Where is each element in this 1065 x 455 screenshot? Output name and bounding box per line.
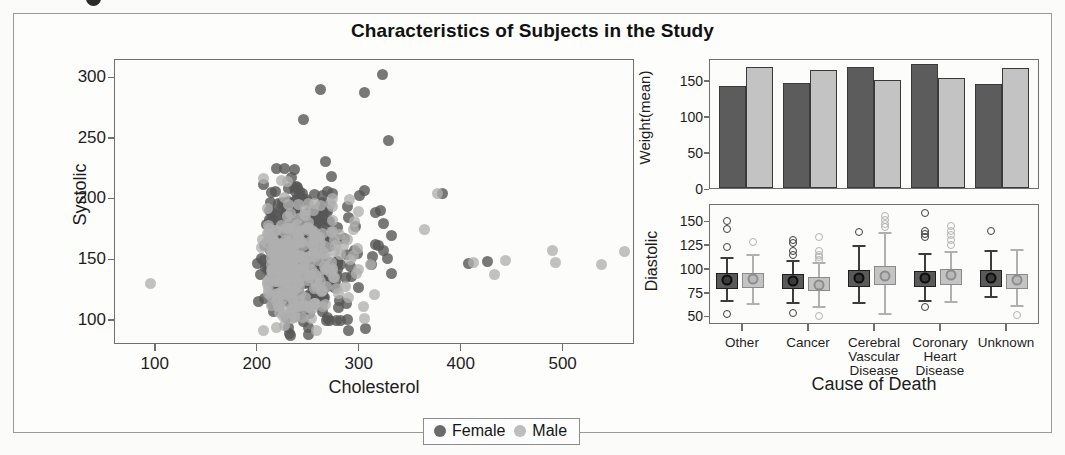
box-y-tick-mark <box>704 268 709 270</box>
box-x-tick-mark <box>741 324 743 331</box>
box-group <box>710 205 776 323</box>
box-group <box>908 205 974 323</box>
box-whisker-cap <box>787 260 800 262</box>
scatter-point <box>265 235 276 246</box>
box-outlier-point <box>723 217 731 225</box>
scatter-point <box>386 230 397 241</box>
scatter-points <box>115 60 633 343</box>
scatter-point <box>327 215 338 226</box>
box-whisker-cap <box>985 296 998 298</box>
box-median-marker <box>748 274 759 285</box>
box-median-marker <box>986 273 997 284</box>
scatter-point <box>377 69 388 80</box>
bar-male <box>874 80 901 188</box>
box-category-label: Cancer <box>774 336 842 350</box>
scatter-point <box>145 278 156 289</box>
scatter-point <box>298 114 309 125</box>
scatter-point <box>342 234 353 245</box>
box-whisker-cap <box>787 302 800 304</box>
box-male <box>806 205 832 323</box>
box-whisker-cap <box>919 253 932 255</box>
box-male <box>1004 205 1030 323</box>
scatter-plot: 100150200250300 100200300400500 <box>114 59 634 344</box>
scatter-point <box>267 248 278 259</box>
scatter-x-tick-mark <box>154 344 156 351</box>
bar-female <box>847 67 874 188</box>
scatter-point <box>359 185 370 196</box>
scatter-y-axis-title: Systolic <box>70 125 91 265</box>
scatter-point <box>547 245 558 256</box>
scatter-point <box>289 164 300 175</box>
scatter-point <box>550 257 561 268</box>
box-y-tick-label: 100 <box>663 261 703 277</box>
bar-panel <box>709 59 1039 189</box>
box-outlier-point <box>723 225 731 233</box>
bar-y-tick-label: 50 <box>663 145 703 161</box>
bar-group <box>714 60 778 188</box>
box-outlier-point <box>723 243 731 251</box>
figure-title: Characteristics of Subjects in the Study <box>14 20 1051 42</box>
scatter-point <box>326 171 337 182</box>
scatter-panel <box>114 59 634 344</box>
box-x-tick-mark <box>939 324 941 331</box>
box-whisker-cap <box>721 257 734 259</box>
box-outlier-point <box>789 309 797 317</box>
box-whisker-cap <box>747 254 760 256</box>
box-category-label: Unknown <box>972 336 1040 350</box>
box-category-label: Coronary Heart Disease <box>906 336 974 378</box>
box-male <box>872 205 898 323</box>
scatter-x-axis-title: Cholesterol <box>114 377 634 398</box>
bar-female <box>975 84 1002 188</box>
box-y-tick-label: 50 <box>663 308 703 324</box>
box-x-tick-mark <box>873 324 875 331</box>
cropped-glyph-top <box>86 0 101 6</box>
box-outlier-point <box>855 228 863 236</box>
scatter-point <box>353 282 364 293</box>
box-outlier-point <box>723 310 731 318</box>
bar-group <box>842 60 906 188</box>
legend-item-male[interactable]: Male <box>514 422 567 440</box>
scatter-point <box>281 273 292 284</box>
box-x-tick-mark <box>807 324 809 331</box>
box-outlier-point <box>815 233 823 241</box>
legend[interactable]: Female Male <box>423 418 580 445</box>
scatter-point <box>343 325 354 336</box>
scatter-x-tick-mark <box>358 344 360 351</box>
scatter-y-tick-mark <box>108 137 114 139</box>
scatter-point <box>353 206 364 217</box>
box-whisker-cap <box>945 251 958 253</box>
box-median-marker <box>1012 275 1023 286</box>
bar-male <box>938 78 965 189</box>
box-group <box>776 205 842 323</box>
box-y-tick-mark <box>704 221 709 223</box>
scatter-point <box>320 156 331 167</box>
bar-female <box>911 64 938 188</box>
scatter-point <box>299 209 310 220</box>
scatter-point <box>253 296 264 307</box>
bar-y-tick-mark <box>704 189 709 191</box>
box-category-label: Other <box>708 336 776 350</box>
box-y-tick-mark <box>704 316 709 318</box>
scatter-y-tick-mark <box>108 198 114 200</box>
legend-item-female[interactable]: Female <box>434 422 505 440</box>
scatter-point <box>596 259 607 270</box>
box-plot-chart: 5075100125150 OtherCancerCerebral Vascul… <box>709 204 1039 324</box>
bar-male <box>810 70 837 188</box>
box-outlier-point <box>749 238 757 246</box>
box-outlier-point <box>921 303 929 311</box>
bar-y-tick-mark <box>704 116 709 118</box>
scatter-point <box>359 87 370 98</box>
scatter-point <box>299 300 310 311</box>
scatter-point <box>358 301 369 312</box>
scatter-y-tick-mark <box>108 259 114 261</box>
legend-label-male: Male <box>532 422 567 440</box>
scatter-point <box>370 207 381 218</box>
box-outlier-point <box>789 247 797 255</box>
box-category-label: Cerebral Vascular Disease <box>840 336 908 378</box>
box-y-tick-label: 75 <box>663 285 703 301</box>
scatter-point <box>619 246 630 257</box>
scatter-x-tick-label: 500 <box>548 354 576 374</box>
box-outlier-point <box>815 312 823 320</box>
scatter-point <box>258 325 269 336</box>
bar-male <box>1002 68 1029 188</box>
